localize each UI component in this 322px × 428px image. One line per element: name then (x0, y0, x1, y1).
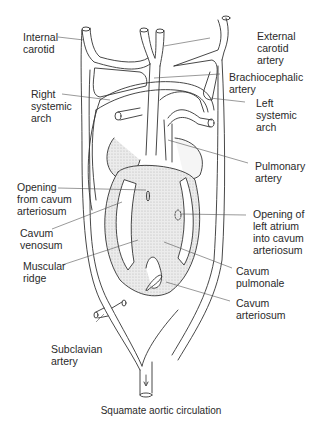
label-left-systemic-arch: Left systemic arch (256, 97, 297, 133)
label-opening-left-atrium: Opening of left atrium into cavum arteri… (253, 208, 304, 256)
label-subclavian-artery: Subclavian artery (51, 343, 102, 367)
carotid-vessels (140, 31, 164, 155)
label-brachiocephalic-artery: Brachiocephalic artery (229, 71, 303, 95)
subclavian-branch (94, 300, 126, 318)
label-external-carotid: External carotid artery (257, 30, 296, 66)
diagram-canvas: Internal carotid External carotid artery… (0, 0, 322, 428)
label-cavum-venosum: Cavum venosum (20, 227, 63, 251)
label-opening-from-cavum: Opening from cavum arteriosum (17, 181, 72, 217)
label-cavum-pulmonale: Cavum pulmonale (236, 265, 284, 289)
label-pulmonary-artery: Pulmonary artery (255, 160, 305, 184)
dorsal-aorta (140, 310, 178, 397)
label-muscular-ridge: Muscular ridge (23, 260, 66, 284)
figure-caption: Squamate aortic circulation (0, 405, 322, 416)
label-right-systemic-arch: Right systemic arch (31, 88, 72, 124)
label-cavum-arteriosum: Cavum arteriosum (236, 297, 286, 321)
label-internal-carotid: Internal carotid (23, 31, 58, 55)
